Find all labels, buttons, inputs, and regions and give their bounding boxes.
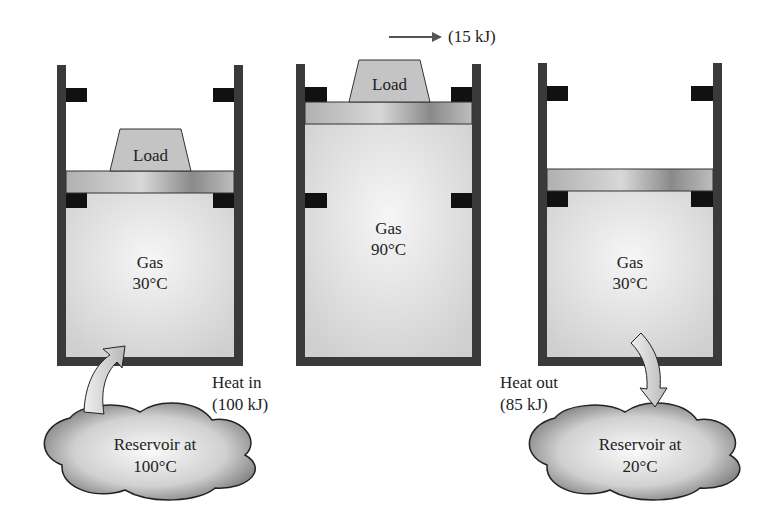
heat-in-label: Heat in (100 kJ) — [212, 372, 268, 416]
gas-temp-1: 30°C — [66, 273, 234, 295]
load-label-1: Load — [120, 145, 181, 167]
reservoir-hot-line1: Reservoir at — [70, 434, 240, 456]
cylinder-1 — [57, 65, 243, 366]
work-label: (15 kJ) — [448, 26, 496, 48]
reservoir-hot-line2: 100°C — [70, 456, 240, 478]
gas-temp-2: 90°C — [305, 239, 472, 261]
gas-temp-3: 30°C — [547, 273, 713, 295]
heat-in-line2: (100 kJ) — [212, 394, 268, 416]
gas-label-2: Gas — [305, 218, 472, 240]
reservoir-cold-line2: 20°C — [555, 456, 725, 478]
gas-label-1: Gas — [66, 252, 234, 274]
heat-out-label: Heat out (85 kJ) — [500, 372, 558, 416]
cylinder-3 — [538, 63, 722, 366]
reservoir-cold-line1: Reservoir at — [555, 434, 725, 456]
reservoir-cold-label: Reservoir at 20°C — [555, 434, 725, 478]
load-label-2: Load — [359, 74, 420, 96]
gas-label-3: Gas — [547, 252, 713, 274]
heat-in-line1: Heat in — [212, 372, 268, 394]
heat-out-line1: Heat out — [500, 372, 558, 394]
reservoir-hot-label: Reservoir at 100°C — [70, 434, 240, 478]
heat-out-line2: (85 kJ) — [500, 394, 558, 416]
